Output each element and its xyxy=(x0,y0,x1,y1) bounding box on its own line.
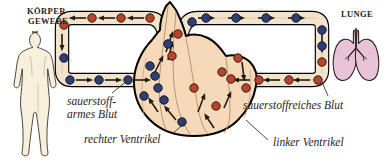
body-silhouette-icon xyxy=(14,32,56,156)
body-tissue-label-line2: GEWEBE xyxy=(16,16,80,26)
body-tissue-label-line1: KÖRPER- xyxy=(16,6,80,16)
left-ventricle-label: linker Ventrikel xyxy=(273,136,344,149)
lungs-icon xyxy=(333,28,378,80)
lung-label: LUNGE xyxy=(330,9,384,19)
right-ventricle-label: rechter Ventrikel xyxy=(84,133,161,146)
body-tissue-label: KÖRPER- GEWEBE xyxy=(16,6,80,26)
blood-circulation-diagram: KÖRPER- GEWEBE LUNGE sauerstoff- armes B… xyxy=(0,0,391,163)
oxygenated-blood-label: sauerstoffreiches Blut xyxy=(243,99,343,112)
deoxygenated-blood-label-line2: armes Blut xyxy=(67,108,117,121)
deoxygenated-blood-label: sauerstoff- armes Blut xyxy=(67,95,117,121)
deoxygenated-blood-label-line1: sauerstoff- xyxy=(67,95,117,108)
